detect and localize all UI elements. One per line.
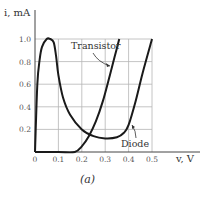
x-tick-label: 0.5 bbox=[146, 155, 158, 164]
arrowhead-transistor bbox=[106, 63, 110, 67]
x-tick-label: 0 bbox=[33, 155, 38, 164]
caption: (a) bbox=[80, 173, 95, 186]
x-tick-label: 0.3 bbox=[99, 155, 111, 164]
x-tick-label: 0.1 bbox=[52, 155, 64, 164]
curve-transistor bbox=[35, 39, 119, 152]
y-tick-label: 0.4 bbox=[19, 103, 31, 112]
y-tick-labels: 0.20.40.60.81.0 bbox=[19, 35, 31, 134]
y-tick-label: 0.6 bbox=[19, 80, 31, 89]
y-tick-label: 0.2 bbox=[19, 125, 31, 134]
x-tick-labels: 00.10.20.30.40.5 bbox=[33, 155, 159, 164]
iv-characteristic-chart: 00.10.20.30.40.5 0.20.40.60.81.0 i, mA v… bbox=[0, 0, 209, 197]
y-tick-label: 0.8 bbox=[19, 58, 31, 67]
annotation-transistor: Transistor bbox=[71, 40, 121, 51]
arrow-transistor bbox=[93, 53, 110, 66]
y-axis-label: i, mA bbox=[4, 7, 31, 18]
grid-lines bbox=[35, 39, 152, 152]
x-tick-label: 0.4 bbox=[123, 155, 135, 164]
curves bbox=[35, 38, 152, 152]
x-axis-label: v, V bbox=[175, 153, 195, 164]
curve-diode bbox=[35, 38, 152, 152]
x-tick-label: 0.2 bbox=[76, 155, 88, 164]
annotation-diode: Diode bbox=[121, 138, 149, 149]
y-tick-label: 1.0 bbox=[19, 35, 31, 44]
